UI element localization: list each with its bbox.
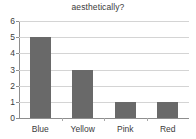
chart-title: aesthetically? — [0, 2, 196, 13]
bar — [115, 102, 136, 118]
plot-area — [19, 21, 189, 118]
gridline — [19, 21, 189, 22]
x-axis-tick-mark — [104, 118, 105, 121]
bar — [30, 37, 51, 118]
x-axis-tick-mark — [147, 118, 148, 121]
y-axis-tick-label: 6 — [1, 17, 15, 26]
x-axis-tick-label: Yellow — [62, 124, 105, 134]
y-axis-tick-label: 5 — [1, 33, 15, 42]
y-axis-tick-label: 2 — [1, 82, 15, 91]
y-axis-tick-label: 1 — [1, 98, 15, 107]
y-axis-tick-label: 3 — [1, 66, 15, 75]
y-axis-tick-label: 4 — [1, 49, 15, 58]
x-axis-tick-label: Pink — [104, 124, 147, 134]
bar-chart: aesthetically? 0123456 BlueYellowPinkRed — [0, 0, 196, 139]
y-axis-tick-label: 0 — [1, 114, 15, 123]
x-axis-tick-labels: BlueYellowPinkRed — [19, 124, 189, 138]
x-axis-tick-label: Red — [147, 124, 190, 134]
bar — [157, 102, 178, 118]
bar — [72, 70, 93, 119]
x-axis-tick-mark — [62, 118, 63, 121]
x-axis-tick-label: Blue — [19, 124, 62, 134]
y-axis-tick-labels: 0123456 — [0, 21, 15, 119]
